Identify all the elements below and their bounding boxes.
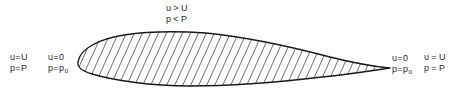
label-top-line1: u>U (166, 3, 188, 14)
label-top-line2-op: < (171, 14, 181, 24)
label-freestream-downstream: u=U p=P (424, 52, 446, 74)
label-far-left-line2: p=P (10, 63, 28, 74)
label-near-left-line2-sub: o (64, 67, 68, 74)
label-far-left-line1-rhs: U (21, 52, 28, 62)
label-upper-surface-condition: u>U p<P (166, 3, 188, 25)
label-near-right-line1: u=0 (392, 53, 412, 64)
label-leading-edge-stagnation: u=0 p=po (48, 52, 68, 74)
label-top-line2: p<P (166, 14, 188, 25)
label-near-left-line2: p=po (48, 63, 68, 74)
label-near-left-line1: u=0 (48, 52, 68, 63)
label-top-line2-rhs: P (181, 14, 187, 24)
airfoil-graphic (0, 0, 458, 100)
label-near-right-line2: p=po (392, 64, 412, 75)
label-trailing-edge-stagnation: u=0 p=po (392, 53, 412, 75)
label-freestream-upstream: u=U p=P (10, 52, 28, 74)
label-far-right-line1-rhs: U (439, 52, 446, 62)
label-near-right-line1-rhs: 0 (403, 53, 408, 63)
label-far-left-line2-rhs: P (21, 63, 27, 73)
label-far-left-line1: u=U (10, 52, 28, 63)
label-far-right-line1: u=U (424, 52, 446, 63)
label-far-right-line1-op: = (429, 52, 439, 62)
airfoil-diagram: u>U p<P u=U p=P u=0 p=po u=0 p=po u=U (0, 0, 458, 100)
label-top-line1-op: > (171, 3, 181, 13)
label-far-right-line2-op: = (429, 63, 439, 73)
label-far-right-line2-rhs: P (439, 63, 445, 73)
airfoil-hatching (40, 12, 432, 100)
label-far-right-line2: p=P (424, 63, 446, 74)
label-top-line1-rhs: U (181, 3, 188, 13)
label-near-left-line1-rhs: 0 (59, 52, 64, 62)
label-near-right-line2-sub: o (408, 68, 412, 75)
